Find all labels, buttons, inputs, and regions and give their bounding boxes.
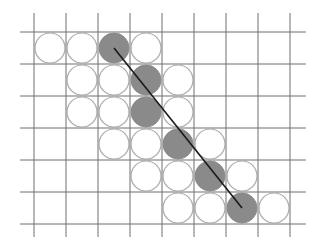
candidate-pixel-circle xyxy=(131,33,161,63)
candidate-pixel-circle xyxy=(259,193,289,223)
candidate-pixel-circle xyxy=(99,65,129,95)
candidate-pixel-circle xyxy=(131,129,161,159)
candidate-pixel-circle xyxy=(163,97,193,127)
candidate-pixel-circle xyxy=(67,97,97,127)
candidate-pixel-circle xyxy=(99,129,129,159)
candidate-pixel-circle xyxy=(35,33,65,63)
candidate-pixel-circle xyxy=(163,65,193,95)
selected-pixel-circle xyxy=(195,161,225,191)
candidate-pixel-circle xyxy=(131,161,161,191)
rasterization-diagram xyxy=(0,0,320,250)
candidate-pixel-circle xyxy=(163,193,193,223)
candidate-pixel-circle xyxy=(99,97,129,127)
candidate-pixel-circle xyxy=(67,33,97,63)
candidate-pixel-circle xyxy=(227,161,257,191)
candidate-pixel-circle xyxy=(195,193,225,223)
candidate-pixel-circle xyxy=(163,161,193,191)
selected-pixel-circle xyxy=(131,65,161,95)
selected-pixel-circle xyxy=(163,129,193,159)
diagram-svg xyxy=(0,0,320,250)
candidate-pixel-circle xyxy=(67,65,97,95)
